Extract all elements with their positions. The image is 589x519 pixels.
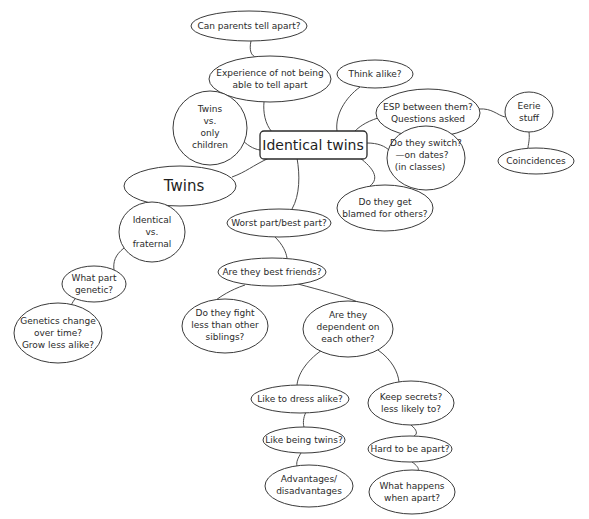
node-label: Are they best friends? bbox=[222, 267, 321, 277]
edge-root-worst-best bbox=[292, 158, 299, 209]
node-label: What happens bbox=[379, 481, 444, 491]
edge-dependent-secrets bbox=[378, 350, 399, 382]
node-label: vs. bbox=[204, 116, 217, 126]
node-label: Can parents tell apart? bbox=[197, 21, 300, 31]
node-genetics-change[interactable]: Genetics change over time? Grow less ali… bbox=[14, 303, 102, 363]
root-node-identical-twins[interactable]: Identical twins bbox=[260, 131, 367, 159]
node-label: (in classes) bbox=[395, 162, 446, 172]
node-label: over time? bbox=[34, 328, 82, 338]
node-worst-best[interactable]: Worst part/best part? bbox=[227, 209, 331, 237]
node-twins[interactable]: Twins bbox=[124, 166, 236, 206]
edge-like-being-advantages bbox=[297, 453, 301, 466]
node-label: stuff bbox=[519, 113, 540, 123]
node-label: Questions asked bbox=[391, 114, 465, 124]
node-label: Do they switch? bbox=[390, 138, 462, 148]
node-label: What part bbox=[72, 273, 117, 283]
edge-best-friends-dependent bbox=[298, 284, 358, 302]
node-label: Twins bbox=[197, 104, 223, 114]
node-label: Identical bbox=[133, 215, 172, 225]
node-label: disadvantages bbox=[276, 486, 342, 496]
edge-can-parents-experience bbox=[250, 41, 256, 57]
node-label: dependent on bbox=[317, 322, 380, 332]
node-switch[interactable]: Do they switch? —on dates? (in classes) bbox=[387, 126, 465, 190]
node-label: Experience of not being bbox=[216, 68, 323, 78]
node-blamed[interactable]: Do they get blamed for others? bbox=[337, 185, 433, 231]
node-what-happens[interactable]: What happens when apart? bbox=[369, 470, 455, 514]
edge-eerie-coincidences bbox=[528, 132, 529, 148]
edge-worst-best-best-friends bbox=[275, 237, 287, 258]
node-label: Keep secrets? bbox=[380, 392, 443, 402]
node-best-friends[interactable]: Are they best friends? bbox=[218, 258, 326, 286]
node-secrets[interactable]: Keep secrets? less likely to? bbox=[368, 381, 454, 425]
node-label: Coincidences bbox=[506, 156, 566, 166]
node-label: Are they bbox=[329, 310, 368, 320]
edge-secrets-hard-apart bbox=[411, 425, 416, 436]
edge-esp-eerie bbox=[479, 109, 505, 117]
node-label: able to tell apart bbox=[233, 80, 308, 90]
node-think-alike[interactable]: Think alike? bbox=[337, 60, 413, 88]
node-advantages[interactable]: Advantages/ disadvantages bbox=[265, 465, 353, 507]
node-label: children bbox=[192, 140, 228, 150]
node-label: Like to dress alike? bbox=[257, 394, 343, 404]
edge-dependent-dress-alike bbox=[297, 350, 322, 385]
edge-experience-root bbox=[264, 102, 272, 132]
node-fight[interactable]: Do they fight less than other siblings? bbox=[182, 299, 268, 353]
node-label: ESP between them? bbox=[383, 102, 473, 112]
node-label: Twins bbox=[163, 177, 205, 195]
node-label: less than other bbox=[191, 320, 259, 330]
node-label: only bbox=[200, 128, 220, 138]
node-label: fraternal bbox=[133, 239, 172, 249]
node-label: Think alike? bbox=[347, 69, 401, 79]
node-label: Grow less alike? bbox=[22, 340, 94, 350]
node-dress-alike[interactable]: Like to dress alike? bbox=[251, 385, 349, 413]
node-label: Hard to be apart? bbox=[370, 444, 449, 454]
node-label: Eerie bbox=[518, 101, 541, 111]
node-label: vs. bbox=[146, 227, 159, 237]
node-coincidences[interactable]: Coincidences bbox=[498, 148, 574, 174]
edge-think-alike-root bbox=[337, 87, 360, 131]
node-label: blamed for others? bbox=[342, 209, 428, 219]
edge-esp-root bbox=[355, 118, 378, 131]
node-hard-apart[interactable]: Hard to be apart? bbox=[368, 436, 452, 462]
node-eerie[interactable]: Eerie stuff bbox=[505, 92, 553, 132]
edge-identical-vs-fraternal-what-part bbox=[114, 248, 124, 270]
node-label: Like being twins? bbox=[265, 435, 343, 445]
node-dependent[interactable]: Are they dependent on each other? bbox=[303, 301, 393, 357]
mind-map-canvas: Can parents tell apart? Experience of no… bbox=[0, 0, 589, 519]
edge-best-friends-fight bbox=[216, 285, 245, 300]
edge-dress-alike-like-being bbox=[303, 412, 306, 427]
node-label: genetic? bbox=[75, 285, 113, 295]
node-label: —on dates? bbox=[396, 150, 449, 160]
node-label: when apart? bbox=[384, 493, 440, 503]
node-label: less likely to? bbox=[381, 404, 441, 414]
node-label: each other? bbox=[321, 334, 375, 344]
node-label: Do they get bbox=[358, 197, 412, 207]
edge-blamed-root bbox=[360, 158, 375, 186]
edge-switch-root bbox=[367, 143, 390, 151]
node-label: Advantages/ bbox=[281, 474, 338, 484]
node-can-parents[interactable]: Can parents tell apart? bbox=[191, 11, 307, 41]
node-label: Worst part/best part? bbox=[231, 218, 327, 228]
node-label: siblings? bbox=[206, 332, 245, 342]
node-what-part-genetic[interactable]: What part genetic? bbox=[62, 266, 126, 302]
node-twins-vs-only[interactable]: Twins vs. only children bbox=[173, 91, 247, 165]
node-identical-vs-fraternal[interactable]: Identical vs. fraternal bbox=[119, 202, 185, 262]
node-label: Do they fight bbox=[196, 308, 255, 318]
edge-twins-root bbox=[232, 158, 269, 177]
node-label: Genetics change bbox=[20, 316, 96, 326]
node-like-being[interactable]: Like being twins? bbox=[263, 427, 345, 453]
root-label: Identical twins bbox=[262, 137, 364, 153]
